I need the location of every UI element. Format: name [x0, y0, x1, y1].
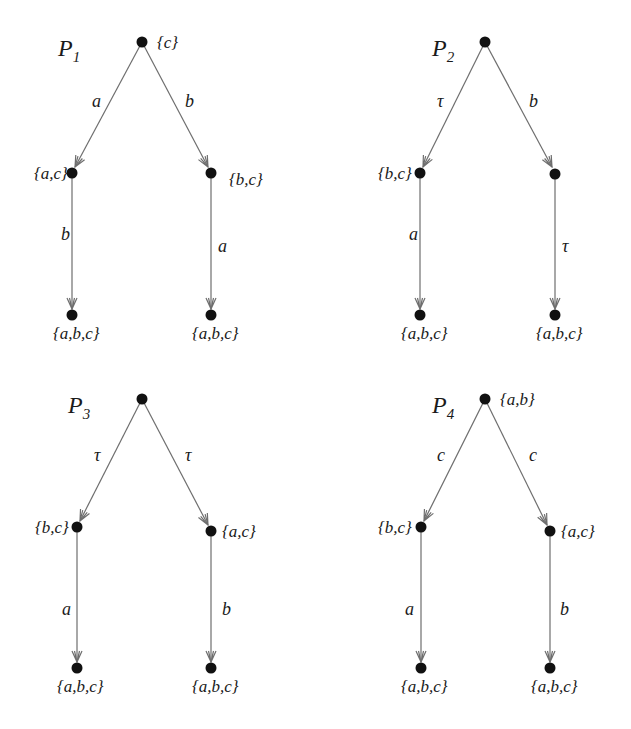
edge-label-p1-root-right: b: [185, 91, 194, 111]
state-label-p1-left-leaf: {a,b,c}: [53, 324, 100, 343]
state-label-p1-root: {c}: [157, 33, 178, 52]
state-p2-right-mid: [550, 169, 561, 180]
state-label-p4-left-mid: {b,c}: [378, 518, 412, 537]
edge-p1-root-right: [142, 42, 208, 167]
state-p3-root: [137, 394, 148, 405]
state-p1-right-leaf: [206, 310, 217, 321]
state-label-p3-left-mid: {b,c}: [35, 518, 69, 537]
process-p1: P1 {c} a b {a,c} {b,c} b a {a,b,c} {a,b,…: [34, 33, 263, 343]
state-p3-right-leaf: [206, 663, 217, 674]
state-p3-right-mid: [206, 526, 217, 537]
edge-label-p3-right-down: b: [222, 599, 231, 619]
state-p4-right-mid: [545, 526, 556, 537]
state-label-p4-left-leaf: {a,b,c}: [401, 677, 448, 696]
state-label-p1-right-leaf: {a,b,c}: [192, 324, 239, 343]
state-p3-left-leaf: [72, 663, 83, 674]
state-label-p4-right-mid: {a,c}: [561, 522, 595, 541]
process-p2: P2 τ b {b,c} a τ {a,b,c} {a,b,c}: [378, 35, 583, 343]
state-p2-right-leaf: [550, 310, 561, 321]
transition-systems-diagram: P1 {c} a b {a,c} {b,c} b a {a,b,c} {a,b,…: [0, 0, 631, 729]
edge-label-p4-left-down: a: [405, 599, 414, 619]
edge-label-p3-root-left: τ: [94, 445, 101, 465]
state-p4-left-leaf: [416, 663, 427, 674]
state-label-p2-left-leaf: {a,b,c}: [401, 324, 448, 343]
edge-p3-root-right: [142, 399, 208, 525]
edge-p2-root-right: [485, 42, 552, 167]
edge-label-p4-root-right: c: [529, 445, 537, 465]
edge-label-p3-left-down: a: [62, 599, 71, 619]
state-p4-root: [480, 394, 491, 405]
edge-label-p4-right-down: b: [560, 599, 569, 619]
state-label-p1-left-mid: {a,c}: [34, 164, 68, 183]
edge-label-p1-left-down: b: [61, 224, 70, 244]
state-p2-root: [480, 37, 491, 48]
state-label-p1-right-mid: {b,c}: [229, 170, 263, 189]
state-label-p4-right-leaf: {a,b,c}: [531, 677, 578, 696]
edge-label-p2-left-down: a: [409, 224, 418, 244]
state-p1-left-leaf: [67, 310, 78, 321]
state-label-p2-right-leaf: {a,b,c}: [536, 324, 583, 343]
process-p4: P4 {a,b} c c {b,c} {a,c} a b {a,b,c} {a,…: [378, 390, 595, 696]
state-p2-left-leaf: [415, 310, 426, 321]
edge-label-p3-root-right: τ: [185, 445, 192, 465]
state-label-p3-right-leaf: {a,b,c}: [192, 677, 239, 696]
state-p4-right-leaf: [545, 663, 556, 674]
edge-p4-root-right: [485, 399, 547, 525]
edge-label-p1-right-down: a: [218, 236, 227, 256]
process-p3: P3 τ τ {b,c} {a,c} a b {a,b,c} {a,b,c}: [35, 392, 256, 696]
process-p3-name: P3: [67, 392, 90, 422]
state-p2-left-mid: [415, 168, 426, 179]
state-p1-right-mid: [206, 168, 217, 179]
state-p3-left-mid: [72, 522, 83, 533]
edge-label-p1-root-left: a: [92, 91, 101, 111]
state-label-p3-right-mid: {a,c}: [222, 522, 256, 541]
edge-label-p2-root-right: b: [529, 91, 538, 111]
state-p1-left-mid: [67, 168, 78, 179]
process-p2-name: P2: [431, 35, 455, 65]
state-p4-left-mid: [416, 522, 427, 533]
edge-label-p2-right-down: τ: [562, 236, 569, 256]
edge-label-p4-root-left: c: [437, 445, 445, 465]
state-label-p3-left-leaf: {a,b,c}: [57, 677, 104, 696]
state-label-p4-root: {a,b}: [500, 390, 535, 409]
state-label-p2-left-mid: {b,c}: [378, 164, 412, 183]
state-p1-root: [137, 37, 148, 48]
edge-label-p2-root-left: τ: [437, 91, 444, 111]
edge-p1-root-left: [75, 42, 142, 167]
process-p1-name: P1: [57, 35, 80, 65]
process-p4-name: P4: [431, 392, 455, 422]
